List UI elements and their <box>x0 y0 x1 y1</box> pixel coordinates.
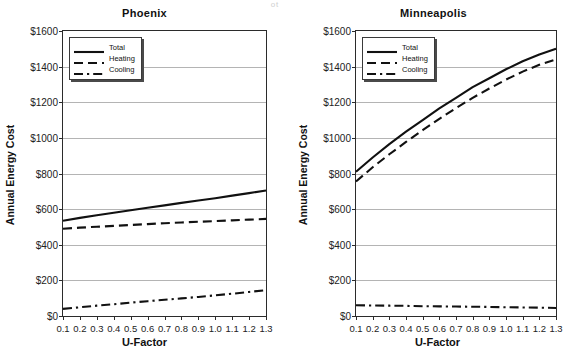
x-tick-label: 1.1 <box>516 323 529 334</box>
x-tick-mark <box>439 316 440 320</box>
y-axis-title-minneapolis: Annual Energy Cost <box>297 125 309 225</box>
legend-label: Heating <box>109 54 135 64</box>
y-tick-label: $800 <box>329 168 351 179</box>
x-tick-label: 1.2 <box>242 323 255 334</box>
y-tick-label: $800 <box>36 168 58 179</box>
x-tick-mark <box>556 316 557 320</box>
chart-panel-phoenix: Phoenix Annual Energy Cost $0$200$400$60… <box>0 0 289 356</box>
chart-title-phoenix: Phoenix <box>0 7 289 19</box>
y-tick-label: $0 <box>47 311 58 322</box>
x-tick-mark <box>406 316 407 320</box>
legend-key-dashed-icon <box>367 54 397 64</box>
y-tick-label: $600 <box>329 204 351 215</box>
series-line-heating <box>63 219 266 229</box>
x-tick-mark <box>181 316 182 320</box>
y-tick-label: $600 <box>36 204 58 215</box>
legend-key-dash-dot-icon <box>367 65 397 75</box>
x-tick-mark <box>232 316 233 320</box>
y-tick-label: $1200 <box>30 97 58 108</box>
legend-key-dashed-icon <box>74 54 104 64</box>
chart-legend: TotalHeatingCooling <box>362 37 435 80</box>
x-tick-label: 0.8 <box>175 323 188 334</box>
x-tick-mark <box>389 316 390 320</box>
x-axis-title-phoenix: U-Factor <box>0 336 289 348</box>
y-tick-label: $200 <box>329 275 351 286</box>
legend-item-heating: Heating <box>74 53 135 64</box>
chart-page: ot Phoenix Annual Energy Cost $0$200$400… <box>0 0 578 356</box>
x-tick-label: 0.2 <box>366 323 379 334</box>
y-tick-label: $1000 <box>323 132 351 143</box>
x-tick-label: 0.5 <box>416 323 429 334</box>
legend-label: Cooling <box>109 65 134 75</box>
x-tick-label: 0.8 <box>466 323 479 334</box>
x-tick-label: 0.5 <box>124 323 137 334</box>
x-tick-label: 0.4 <box>107 323 120 334</box>
x-tick-label: 1.3 <box>549 323 562 334</box>
x-tick-mark <box>456 316 457 320</box>
x-tick-mark <box>373 316 374 320</box>
plot-area-phoenix: $0$200$400$600$800$1000$1200$1400$16000.… <box>62 30 267 317</box>
x-tick-label: 0.2 <box>73 323 86 334</box>
legend-item-total: Total <box>74 42 135 53</box>
chart-title-minneapolis: Minneapolis <box>289 7 578 19</box>
y-tick-label: $1200 <box>323 97 351 108</box>
legend-key-solid-icon <box>367 43 397 53</box>
x-tick-mark <box>148 316 149 320</box>
x-tick-mark <box>523 316 524 320</box>
y-tick-label: $400 <box>329 239 351 250</box>
x-tick-label: 0.9 <box>483 323 496 334</box>
x-tick-label: 0.3 <box>90 323 103 334</box>
x-tick-mark <box>473 316 474 320</box>
x-tick-mark <box>215 316 216 320</box>
x-tick-label: 0.6 <box>433 323 446 334</box>
x-tick-label: 0.1 <box>56 323 69 334</box>
x-tick-label: 0.7 <box>158 323 171 334</box>
x-tick-label: 1.1 <box>226 323 239 334</box>
legend-label: Total <box>109 43 125 53</box>
series-line-cooling <box>356 305 556 308</box>
plot-area-minneapolis: $0$200$400$600$800$1000$1200$1400$16000.… <box>355 30 557 317</box>
x-tick-label: 1.0 <box>209 323 222 334</box>
y-tick-label: $200 <box>36 275 58 286</box>
legend-key-solid-icon <box>74 43 104 53</box>
y-tick-label: $1400 <box>30 61 58 72</box>
x-tick-label: 0.6 <box>141 323 154 334</box>
y-axis-title-phoenix: Annual Energy Cost <box>4 125 16 225</box>
y-tick-label: $0 <box>340 311 351 322</box>
y-tick-label: $1600 <box>323 26 351 37</box>
x-tick-mark <box>356 316 357 320</box>
chart-panel-minneapolis: Minneapolis Annual Energy Cost $0$200$40… <box>289 0 578 356</box>
y-tick-label: $1400 <box>323 61 351 72</box>
legend-item-cooling: Cooling <box>367 64 428 75</box>
x-tick-label: 1.3 <box>259 323 272 334</box>
x-tick-label: 0.4 <box>399 323 412 334</box>
x-tick-mark <box>97 316 98 320</box>
x-tick-label: 0.1 <box>349 323 362 334</box>
legend-label: Heating <box>402 54 428 64</box>
x-tick-mark <box>165 316 166 320</box>
x-tick-mark <box>198 316 199 320</box>
legend-label: Cooling <box>402 65 427 75</box>
x-tick-mark <box>539 316 540 320</box>
legend-item-total: Total <box>367 42 428 53</box>
x-tick-label: 1.2 <box>533 323 546 334</box>
x-tick-mark <box>63 316 64 320</box>
x-tick-label: 1.0 <box>499 323 512 334</box>
x-tick-label: 0.7 <box>449 323 462 334</box>
x-tick-label: 0.3 <box>383 323 396 334</box>
legend-item-cooling: Cooling <box>74 64 135 75</box>
y-tick-label: $400 <box>36 239 58 250</box>
legend-label: Total <box>402 43 418 53</box>
x-tick-label: 0.9 <box>192 323 205 334</box>
x-tick-mark <box>506 316 507 320</box>
legend-item-heating: Heating <box>367 53 428 64</box>
legend-key-dash-dot-icon <box>74 65 104 75</box>
x-tick-mark <box>80 316 81 320</box>
x-tick-mark <box>489 316 490 320</box>
x-tick-mark <box>423 316 424 320</box>
x-tick-mark <box>249 316 250 320</box>
y-tick-label: $1000 <box>30 132 58 143</box>
x-tick-mark <box>266 316 267 320</box>
x-axis-title-minneapolis: U-Factor <box>293 336 578 348</box>
y-tick-label: $1600 <box>30 26 58 37</box>
